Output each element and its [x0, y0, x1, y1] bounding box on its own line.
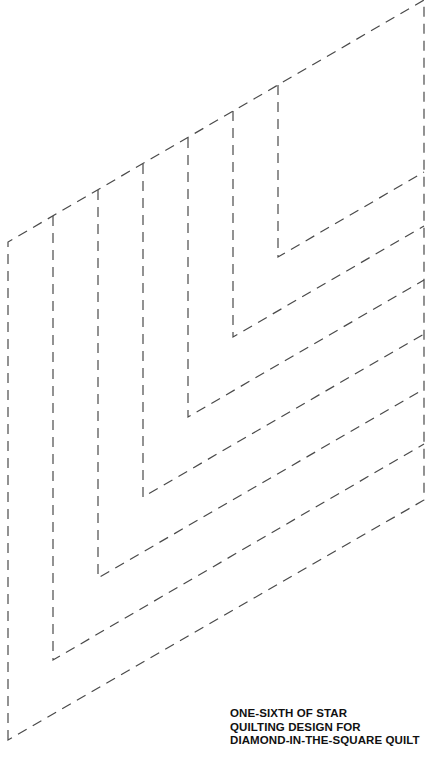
caption-line-1: ONE-SIXTH OF STAR — [230, 707, 420, 721]
chevron-line-3 — [143, 164, 424, 497]
caption-line-3: DIAMOND-IN-THE-SQUARE QUILT — [230, 734, 420, 748]
caption-line-2: QUILTING DESIGN FOR — [230, 721, 420, 735]
chevron-line-2 — [98, 190, 424, 578]
chevron-line-6 — [278, 85, 424, 257]
chevron-line-5 — [233, 111, 424, 337]
diagram-caption: ONE-SIXTH OF STAR QUILTING DESIGN FOR DI… — [230, 707, 420, 748]
quilting-diagram — [0, 0, 431, 768]
chevron-line-1 — [53, 216, 424, 660]
chevron-line-4 — [188, 138, 424, 417]
